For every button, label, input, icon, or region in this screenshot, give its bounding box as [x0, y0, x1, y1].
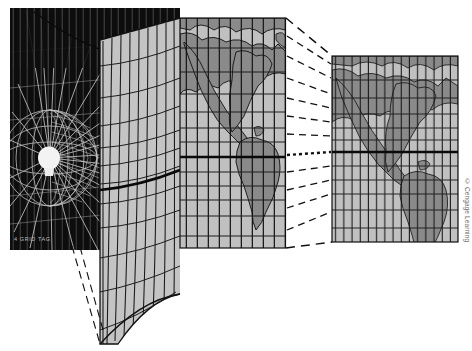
reduced-world-map [332, 56, 459, 270]
projection-diagram-svg [0, 0, 472, 351]
equator-projector [287, 152, 331, 155]
unrolled-world-map [180, 18, 286, 248]
globe-panel-label: 4 GRID TAG [14, 236, 51, 242]
scale-reduction-lines [286, 18, 332, 248]
copyright-credit: © Cengage Learning [464, 178, 471, 242]
cylinder-body [100, 18, 180, 344]
map-projection-figure: 4 GRID TAG © Cengage Learning [0, 0, 472, 351]
cylinder-tangent-guides [72, 246, 103, 344]
